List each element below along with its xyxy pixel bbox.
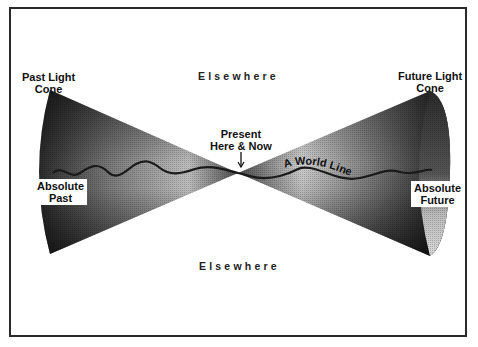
past-light-cone-label-line2: Cone xyxy=(22,83,75,95)
present-label-line1: Present xyxy=(210,128,272,140)
absolute-future-label-line2: Future xyxy=(414,194,461,206)
past-light-cone xyxy=(39,90,238,254)
future-light-cone-label: Future Light Cone xyxy=(398,70,462,94)
absolute-future-label: Absolute Future xyxy=(411,181,464,207)
light-cone-diagram: A World Line xyxy=(0,0,478,347)
present-label: Present Here & Now xyxy=(210,128,272,152)
absolute-past-label-line1: Absolute xyxy=(37,180,84,192)
absolute-future-label-line1: Absolute xyxy=(414,182,461,194)
present-label-line2: Here & Now xyxy=(210,140,272,152)
elsewhere-bottom-label: Elsewhere xyxy=(199,260,280,272)
past-light-cone-label: Past Light Cone xyxy=(22,71,75,95)
absolute-past-label: Absolute Past xyxy=(34,179,87,205)
absolute-past-label-line2: Past xyxy=(37,192,84,204)
past-light-cone-label-line1: Past Light xyxy=(22,71,75,83)
future-light-cone-label-line2: Cone xyxy=(398,82,462,94)
elsewhere-top-label: Elsewhere xyxy=(198,70,279,82)
present-arrow-icon xyxy=(238,152,244,167)
future-light-cone-label-line1: Future Light xyxy=(398,70,462,82)
